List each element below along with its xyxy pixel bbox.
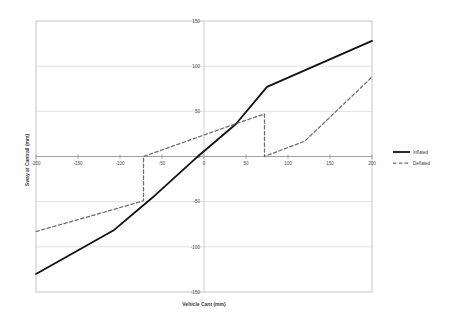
y-tick-label: -50 [193,199,200,204]
x-axis-title: Vehicle Cant (mm) [182,301,226,307]
chart-svg: -200-150-100-50050100150200 -150-100-500… [0,0,453,321]
x-tick-label: -100 [115,161,125,166]
x-tick-label: 100 [284,161,292,166]
x-tick-label: 0 [203,161,206,166]
x-tick-label: -50 [159,161,166,166]
y-tick-label: -100 [191,245,201,250]
x-tick-label: 150 [326,161,334,166]
x-tick-label: 50 [243,161,249,166]
y-axis-title: Sway at Cantrail (mm) [24,134,30,187]
legend-label-inflated: Inflated [413,150,429,155]
y-tick-label: 50 [195,109,201,114]
legend-label-deflated: Deflated [413,161,431,166]
x-tick-label: -150 [73,161,83,166]
y-tick-label: 100 [192,64,200,69]
chart-container: -200-150-100-50050100150200 -150-100-500… [0,0,453,321]
y-tick-label: 150 [192,19,200,24]
x-tick-label: 200 [368,161,376,166]
x-tick-label: -200 [31,161,41,166]
y-tick-label: -150 [191,290,201,295]
